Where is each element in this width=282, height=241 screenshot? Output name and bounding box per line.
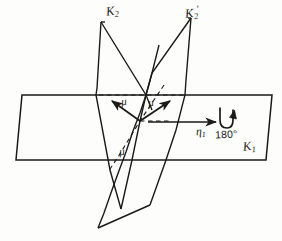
label-k2-subscript: 2 <box>114 9 119 19</box>
diagram-canvas <box>0 0 282 241</box>
label-mu-left: μ <box>120 96 127 108</box>
label-eta1: η1 <box>196 126 207 140</box>
label-k2-prime: K2' <box>184 4 200 22</box>
label-mu-lower: μ <box>118 146 125 158</box>
label-rotation-180: 180° <box>215 128 238 140</box>
label-k1: K1 <box>242 139 256 154</box>
label-mu-right: μ <box>147 97 154 109</box>
label-k1-subscript: 1 <box>251 144 256 154</box>
label-eta1-subscript: 1 <box>202 130 207 139</box>
label-k2: K2 <box>105 4 119 19</box>
twinning-diagram-figure: K2 K2' μ μ μ η1 180° K1 <box>0 0 282 241</box>
